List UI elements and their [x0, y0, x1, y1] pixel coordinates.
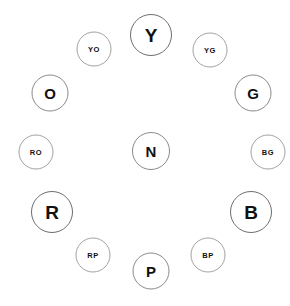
- color-node-o[interactable]: O: [32, 75, 69, 112]
- color-node-y[interactable]: Y: [130, 14, 172, 56]
- color-node-label: Y: [145, 26, 158, 45]
- color-node-g[interactable]: G: [235, 75, 272, 112]
- color-node-r[interactable]: R: [31, 191, 73, 233]
- color-node-ro[interactable]: RO: [19, 135, 54, 170]
- color-node-label: P: [146, 264, 156, 279]
- color-node-label: B: [244, 203, 258, 222]
- color-node-b[interactable]: B: [230, 191, 272, 233]
- color-node-bp[interactable]: BP: [191, 238, 226, 273]
- color-node-label: YG: [204, 46, 216, 54]
- color-node-yg[interactable]: YG: [193, 33, 228, 68]
- color-node-label: R: [45, 203, 59, 222]
- color-wheel-diagram: YYGGBGBBPPRPRROOYON: [0, 0, 290, 306]
- color-node-n[interactable]: N: [132, 132, 170, 170]
- color-node-label: O: [44, 86, 56, 101]
- color-node-label: YO: [88, 45, 100, 53]
- color-node-label: G: [247, 86, 259, 101]
- color-node-label: RO: [30, 148, 42, 156]
- color-node-label: RP: [87, 251, 99, 259]
- color-node-label: N: [146, 144, 157, 159]
- color-node-label: BP: [202, 251, 214, 259]
- color-node-bg[interactable]: BG: [251, 135, 286, 170]
- color-node-label: BG: [262, 148, 274, 156]
- color-node-rp[interactable]: RP: [76, 238, 111, 273]
- color-node-yo[interactable]: YO: [77, 32, 112, 67]
- color-node-p[interactable]: P: [133, 253, 170, 290]
